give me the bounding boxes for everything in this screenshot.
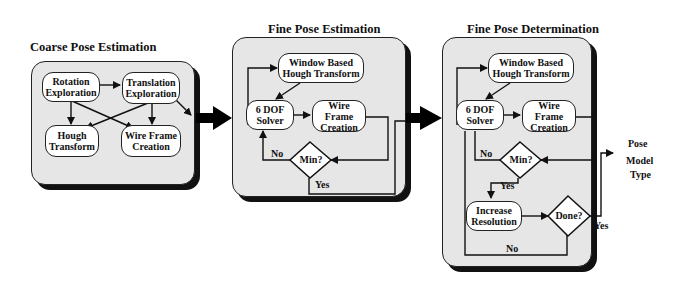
output-label-type: Type bbox=[630, 169, 651, 180]
label-no-done: No bbox=[506, 243, 518, 254]
panel-title-fine-estimation: Fine Pose Estimation bbox=[268, 22, 381, 37]
output-label-pose: Pose bbox=[628, 138, 647, 149]
label-yes-fine-est: Yes bbox=[315, 179, 329, 190]
node-translation-exploration: Translation Exploration bbox=[122, 72, 180, 104]
node-window-hough-fine-det: Window Based Hough Transform bbox=[488, 53, 574, 83]
label-yes-done: Yes bbox=[594, 220, 608, 231]
node-wire-frame-fine-det: Wire Frame Creation bbox=[522, 100, 576, 132]
node-6dof-solver-fine-det: 6 DOF Solver bbox=[456, 100, 504, 130]
decision-min-fine-det: Min? bbox=[502, 154, 540, 165]
panel-title-coarse: Coarse Pose Estimation bbox=[30, 40, 156, 55]
panel-title-fine-determination: Fine Pose Determination bbox=[467, 22, 599, 37]
output-label-model: Model bbox=[626, 155, 653, 166]
decision-done: Done? bbox=[548, 210, 590, 221]
node-rotation-exploration: Rotation Exploration bbox=[42, 72, 100, 102]
label-no-min-fine-det: No bbox=[480, 148, 492, 159]
decision-min-fine-est: Min? bbox=[292, 154, 330, 165]
node-wire-frame-creation-coarse: Wire Frame Creation bbox=[121, 125, 181, 157]
label-no-fine-est: No bbox=[271, 148, 283, 159]
node-6dof-solver-fine-est: 6 DOF Solver bbox=[246, 100, 294, 130]
node-wire-frame-fine-est: Wire Frame Creation bbox=[312, 100, 366, 132]
label-yes-min-fine-det: Yes bbox=[500, 180, 514, 191]
node-increase-resolution: Increase Resolution bbox=[466, 201, 522, 231]
node-hough-transform: Hough Transform bbox=[45, 125, 99, 157]
node-window-hough-fine-est: Window Based Hough Transform bbox=[278, 53, 364, 83]
